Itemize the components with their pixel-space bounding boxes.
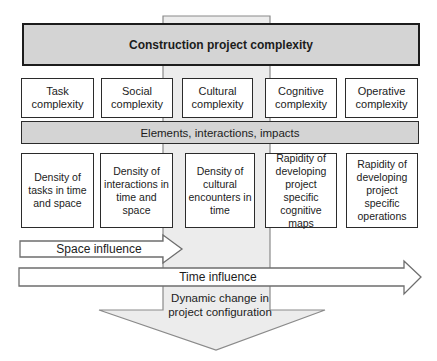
dynamic-change-label: Dynamic change in project configuration xyxy=(168,292,272,319)
space-influence-label-wrap: Space influence xyxy=(24,241,174,257)
dynamic-change-label-wrap: Dynamic change in project configuration xyxy=(120,292,320,319)
time-influence-label-wrap: Time influence xyxy=(19,268,417,286)
diagram-canvas: Construction project complexity Task com… xyxy=(0,0,437,361)
time-influence-label: Time influence xyxy=(179,270,257,284)
space-influence-label: Space influence xyxy=(56,242,141,256)
